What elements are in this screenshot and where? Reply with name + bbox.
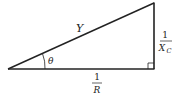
vertical-side-label: 1 X C (158, 30, 172, 55)
angle-arc (43, 54, 46, 69)
hypotenuse-side (8, 3, 154, 69)
angle-label: θ (48, 56, 54, 66)
base-side-label: 1 R (92, 72, 102, 95)
base-denominator: R (93, 85, 101, 95)
admittance-triangle-diagram: Y θ 1 X C 1 R (0, 0, 179, 101)
right-angle-marker (148, 63, 154, 69)
vertical-denominator-sub: C (167, 47, 172, 55)
vertical-numerator: 1 (162, 30, 168, 40)
vertical-denominator-main: X (158, 43, 166, 53)
base-numerator: 1 (94, 72, 100, 82)
hypotenuse-label: Y (76, 22, 85, 35)
